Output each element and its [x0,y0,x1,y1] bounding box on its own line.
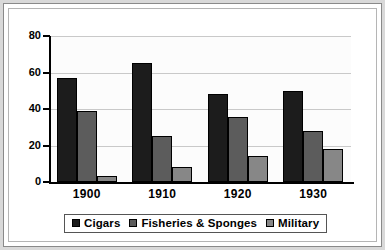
y-tick-label-20: 20 [15,139,41,151]
bar-1920-cigars [208,94,228,183]
legend-label: Cigars [84,217,120,229]
legend-swatch-icon [129,219,137,227]
x-tick-label-1920: 1920 [208,187,268,201]
bar-1930-cigars [283,91,303,182]
bar-1900-fisheries-sponges [77,111,97,182]
chart-figure: 020406080 1900191019201930 CigarsFisheri… [0,0,385,250]
y-tick-80 [43,35,50,37]
legend-entry-cigars[interactable]: Cigars [72,217,120,229]
bar-1930-fisheries-sponges [303,131,323,182]
y-tick-label-40: 40 [15,102,41,114]
gridline-60 [49,73,351,74]
legend-entry-fisheries-sponges[interactable]: Fisheries & Sponges [129,217,257,229]
chart-inner-border: 020406080 1900191019201930 CigarsFisheri… [8,8,377,242]
x-tick-label-1900: 1900 [57,187,117,201]
legend-entry-military[interactable]: Military [266,217,319,229]
x-tick-label-1930: 1930 [283,187,343,201]
chart-legend: CigarsFisheries & SpongesMilitary [64,214,327,233]
chart-outer-border: 020406080 1900191019201930 CigarsFisheri… [3,3,382,247]
bar-1930-military [323,149,343,182]
y-tick-label-60: 60 [15,66,41,78]
y-tick-60 [43,72,50,74]
y-tick-label-0: 0 [15,175,41,187]
bar-1910-military [172,167,192,182]
y-tick-0 [43,181,50,183]
y-tick-40 [43,108,50,110]
bar-1910-fisheries-sponges [152,136,172,182]
plot-area [49,36,351,182]
bar-1900-cigars [57,78,77,182]
gridline-80 [49,36,351,37]
legend-label: Military [278,217,319,229]
legend-label: Fisheries & Sponges [141,217,257,229]
y-tick-label-80: 80 [15,29,41,41]
legend-swatch-icon [266,219,274,227]
x-tick-label-1910: 1910 [132,187,192,201]
bar-1920-fisheries-sponges [228,117,248,182]
x-axis-line [49,182,354,184]
bar-1910-cigars [132,63,152,182]
legend-swatch-icon [72,219,80,227]
y-tick-20 [43,145,50,147]
bar-1920-military [248,156,268,182]
